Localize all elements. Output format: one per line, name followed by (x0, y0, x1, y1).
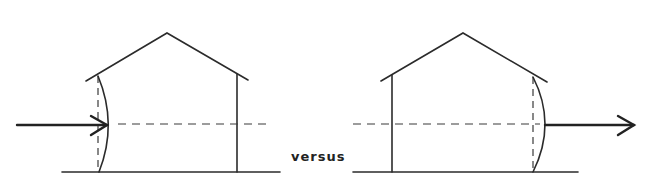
right-house (353, 33, 634, 172)
right-roof (381, 33, 547, 82)
left-arrow-icon (17, 116, 107, 135)
left-roof (86, 33, 248, 81)
versus-label: versus (291, 149, 345, 164)
right-arrow-icon (545, 116, 634, 135)
left-house (17, 33, 280, 172)
